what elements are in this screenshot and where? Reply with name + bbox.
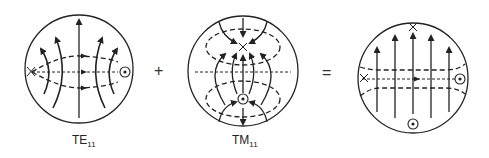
tm11-e-field-left-inner: [232, 54, 237, 94]
tm11-label-sub: 11: [249, 140, 257, 149]
te11-h-field-upper: [32, 56, 118, 72]
te11-label: TE11: [72, 133, 96, 149]
tm11-dot-circle-icon: [238, 94, 248, 104]
equals-operator: =: [322, 64, 331, 82]
sum-x-mark-top-icon: [409, 23, 417, 31]
te11-label-sub: 11: [87, 140, 95, 149]
sum-x-mark-left-icon: [360, 74, 368, 82]
sum-h-arrow-center: [414, 77, 420, 82]
te11-e-field-left-outer: [53, 38, 62, 108]
tm11-label: TM11: [232, 133, 258, 149]
te11-h-arrow-center: [81, 70, 87, 75]
tm11-e-field-bottom-right: [250, 102, 267, 122]
tm11-panel: [188, 16, 298, 126]
te11-label-main: TE: [72, 133, 87, 147]
te11-h-arrow-lower: [81, 86, 87, 91]
te11-h-arrow-upper: [81, 54, 87, 59]
te11-panel: [25, 15, 133, 123]
tm11-label-main: TM: [232, 133, 249, 147]
tm11-e-field-right-inner: [249, 54, 254, 94]
sum-dot-circle-bottom-icon: [408, 119, 418, 129]
tm11-x-mark-icon: [239, 43, 247, 51]
sum-dot-circle-right-icon: [455, 74, 465, 84]
te11-h-field-lower: [32, 72, 118, 88]
te11-e-field-right-outer: [96, 38, 105, 108]
plus-operator: +: [154, 62, 163, 80]
tm11-e-field-top-left: [219, 22, 236, 43]
tm11-e-field-bottom-left: [219, 102, 236, 122]
sum-panel: [358, 23, 468, 133]
te11-dot-circle-icon: [120, 67, 130, 77]
